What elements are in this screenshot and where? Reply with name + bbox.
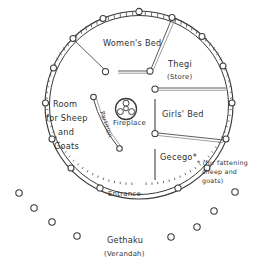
- hearth-stone: [117, 109, 123, 115]
- wall-post: [68, 165, 74, 171]
- label-room-line4: Goats: [54, 141, 79, 151]
- wall-post: [229, 100, 235, 106]
- label-womens-bed: Women's Bed: [103, 38, 162, 48]
- verandah-post: [74, 233, 80, 239]
- verandah-post: [31, 205, 37, 211]
- label-gethaku-sub: (Verandah): [104, 250, 145, 258]
- wall-post: [43, 100, 49, 106]
- hearth-stone-center: [124, 106, 129, 111]
- wall-post: [220, 63, 226, 69]
- thegi-lower-post: [152, 86, 158, 92]
- partition-bottom-post: [117, 146, 123, 152]
- wall-post: [169, 15, 175, 21]
- footnote-line2: sheep and: [202, 168, 237, 176]
- label-gethaku: Gethaku: [107, 235, 143, 245]
- verandah-post: [16, 190, 22, 196]
- verandah-post: [194, 224, 200, 230]
- label-thegi: Thegi: [167, 59, 192, 69]
- hearth-stone: [123, 100, 129, 106]
- label-room-line2: for Sheep: [46, 113, 88, 123]
- wall-post: [100, 16, 106, 22]
- verandah-post: [232, 189, 238, 195]
- partition-top-post: [91, 94, 97, 100]
- girls-bed-post: [152, 130, 158, 136]
- wall-post: [136, 8, 142, 14]
- footnote-line3: goats): [202, 177, 223, 185]
- label-room-line1: Room: [53, 99, 77, 109]
- label-gecego: Gecego*: [160, 152, 197, 162]
- label-room-line3: and: [58, 127, 74, 137]
- hut-floor-plan-diagram: Women's Bed Thegi (Store) Girls' Bed Gec…: [0, 0, 274, 269]
- label-entrance: Entrance: [108, 190, 141, 198]
- womens-bed-post: [102, 68, 108, 74]
- label-thegi-sub: (Store): [167, 73, 192, 81]
- label-partition: Partition: [99, 110, 114, 138]
- wall-post: [51, 65, 57, 71]
- label-fireplace: Fireplace: [113, 119, 146, 127]
- fireplace-group: [116, 99, 137, 120]
- verandah-post: [49, 219, 55, 225]
- label-girls-bed: Girls' Bed: [162, 109, 204, 119]
- verandah-post: [211, 208, 217, 214]
- wall-post: [97, 185, 103, 191]
- footnote-line1: * (for fattening: [197, 159, 248, 167]
- verandah-post: [168, 234, 174, 240]
- wall-post: [199, 34, 205, 40]
- thegi-post: [147, 68, 153, 74]
- hearth-stone: [129, 109, 135, 115]
- wall-post: [223, 136, 229, 142]
- womens-bed-beam: [75, 41, 106, 71]
- wall-post: [175, 185, 181, 191]
